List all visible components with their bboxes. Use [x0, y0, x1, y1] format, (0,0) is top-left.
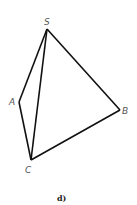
vertex-label-c: C — [25, 165, 32, 175]
figure-caption: d) — [57, 193, 67, 203]
vertex-label-b: B — [122, 106, 128, 116]
edge-ac — [19, 102, 31, 160]
edge-cb — [31, 110, 120, 160]
edge-sb — [47, 29, 120, 110]
vertex-label-s: S — [44, 17, 50, 27]
vertex-label-a: A — [8, 97, 15, 107]
pyramid-diagram: S A B C d) — [0, 0, 137, 205]
edges — [19, 29, 120, 160]
